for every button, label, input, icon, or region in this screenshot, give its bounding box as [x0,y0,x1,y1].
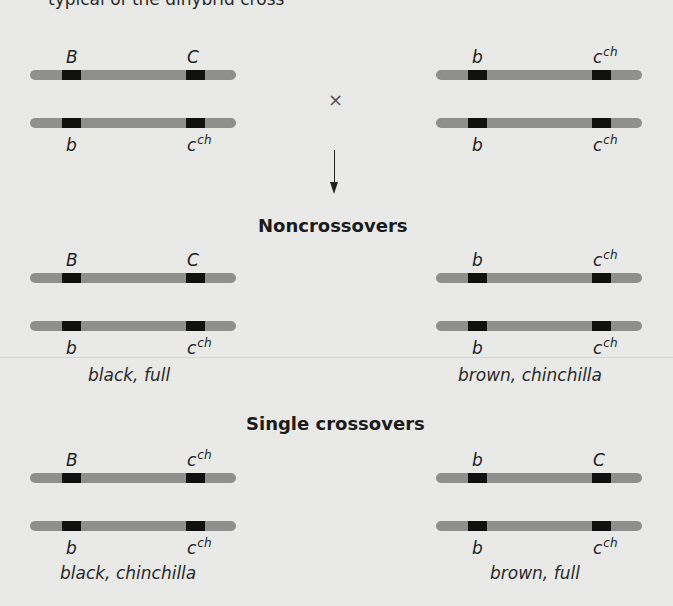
allele-label: B [66,449,79,469]
divider [0,357,673,358]
allele-label: B [66,249,79,269]
parent-left-pair: B C b cch [30,40,240,140]
single-crossover-right-pair: b C b cch [436,443,646,543]
section-title-single-crossovers: Single crossovers [246,413,425,434]
allele-label: cch [187,134,212,154]
allele-label: cch [187,537,212,557]
allele-label: C [593,449,606,469]
single-crossover-left-pair: B cch b cch [30,443,240,543]
phenotype-label: black, full [88,365,170,385]
allele-label: b [472,134,484,154]
allele-label: B [66,46,79,66]
cross-symbol: × [328,89,343,110]
locus-band [592,70,611,80]
phenotype-label: brown, chinchilla [458,365,602,385]
phenotype-label: brown, full [490,563,580,583]
allele-label: cch [187,337,212,357]
chromosome [30,118,236,128]
allele-label: cch [593,46,618,66]
locus-band [186,70,205,80]
allele-label: cch [593,134,618,154]
allele-label: C [187,46,200,66]
allele-label: cch [593,537,618,557]
allele-label: b [66,337,78,357]
caption-cut-off: typical of the dihybrid cross [48,0,284,9]
phenotype-label: black, chinchilla [60,563,196,583]
chromosome [436,70,642,80]
down-arrow-icon [334,150,335,186]
section-title-noncrossovers: Noncrossovers [258,215,407,236]
locus-band [592,118,611,128]
chromosome [436,473,642,483]
locus-band [62,118,81,128]
allele-label: b [472,249,484,269]
chromosome [436,273,642,283]
allele-label: cch [593,337,618,357]
locus-band [468,118,487,128]
allele-label: b [66,537,78,557]
chromosome [30,473,236,483]
noncrossover-right-pair: b cch b cch [436,243,646,343]
chromosome [30,521,236,531]
chromosome [436,521,642,531]
chromosome [30,70,236,80]
allele-label: b [472,337,484,357]
allele-label: b [472,537,484,557]
locus-band [62,70,81,80]
allele-label: cch [187,449,212,469]
allele-label: C [187,249,200,269]
chromosome [436,118,642,128]
locus-band [468,70,487,80]
allele-label: b [472,449,484,469]
chromosome [30,321,236,331]
allele-label: b [66,134,78,154]
locus-band [186,118,205,128]
allele-label: cch [593,249,618,269]
allele-label: b [472,46,484,66]
noncrossover-left-pair: B C b cch [30,243,240,343]
chromosome [30,273,236,283]
parent-right-pair: b cch b cch [436,40,646,140]
chromosome [436,321,642,331]
